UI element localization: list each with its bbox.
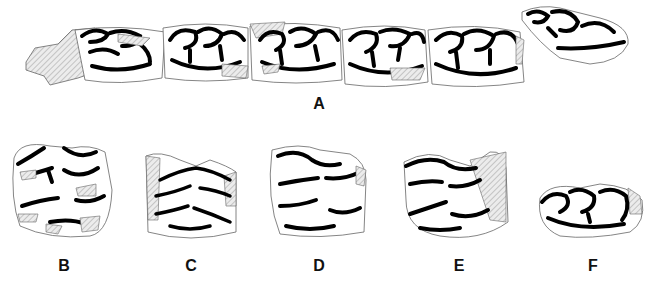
panel-label-f: F: [588, 257, 598, 275]
panel-label-c: C: [185, 257, 197, 275]
tooth-figure: A B C D E F: [0, 0, 654, 283]
panel-e-tooth: [404, 152, 508, 238]
panel-f-tooth: [539, 184, 642, 237]
tooth-drawings: [0, 0, 654, 283]
panel-b-tooth: [13, 145, 112, 237]
panel-label-d: D: [313, 257, 325, 275]
panel-label-a: A: [313, 95, 325, 113]
panel-label-b: B: [58, 257, 70, 275]
panel-a-tooth-row: [26, 7, 628, 87]
panel-c-tooth: [146, 154, 236, 238]
panel-label-e: E: [454, 257, 465, 275]
panel-d-tooth: [270, 146, 366, 237]
